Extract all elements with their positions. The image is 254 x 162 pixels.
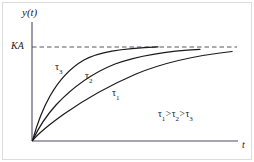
tau-ordering-annotation: τ1>τ2>τ3 (158, 110, 193, 122)
asymptote-value-label: KA (11, 41, 24, 51)
x-axis-label: t (242, 140, 245, 150)
curve-label-tau3: τ3 (55, 62, 63, 75)
tau2-subscript: 2 (89, 77, 93, 85)
tau1-subscript: 1 (116, 94, 120, 102)
curve-label-tau2: τ2 (85, 71, 93, 84)
annotation-tau-2: τ (172, 109, 176, 119)
annotation-sub-1: 1 (162, 115, 166, 123)
annotation-sub-2: 2 (176, 115, 180, 123)
tau3-subscript: 3 (59, 68, 63, 76)
figure-frame (3, 3, 252, 160)
curve-label-tau1: τ1 (112, 88, 120, 101)
step-response-chart (0, 0, 254, 162)
y-axis-label: y(t) (22, 7, 37, 18)
annotation-sub-3: 3 (189, 115, 193, 123)
figure-container: y(t) KA t τ3 τ2 τ1 τ1>τ2>τ3 (0, 0, 254, 162)
